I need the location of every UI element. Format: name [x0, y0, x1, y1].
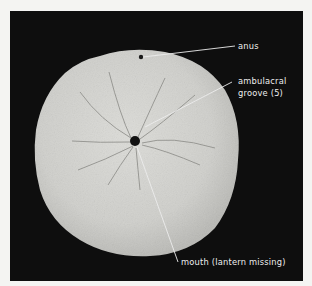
label-ambulacral-line2: groove (5)	[238, 88, 283, 99]
mouth-opening	[130, 136, 140, 146]
label-mouth: mouth (lantern missing)	[181, 257, 286, 268]
label-ambulacral-line1: ambulacral	[238, 76, 286, 87]
sand-dollar-photo	[0, 0, 312, 286]
anus-pore	[139, 55, 143, 59]
label-anus: anus	[238, 41, 259, 52]
